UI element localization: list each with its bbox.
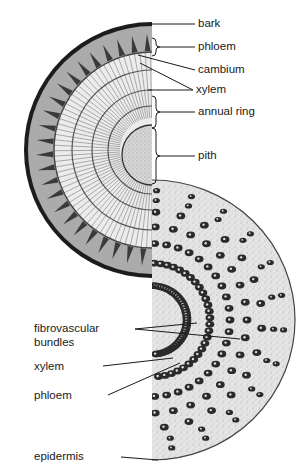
label-epidermis: epidermis [34, 450, 84, 463]
label-xylem: xylem [196, 83, 226, 96]
label-xylem-monocot: xylem [34, 360, 64, 373]
label-cambium: cambium [198, 63, 245, 76]
label-pith: pith [198, 149, 217, 162]
label-bark: bark [198, 17, 220, 30]
stem-cross-section-diagram: bark phloem cambium xylem annual ring pi… [0, 0, 305, 473]
label-phloem-monocot: phloem [34, 389, 72, 402]
label-phloem: phloem [198, 40, 236, 53]
label-annual-ring: annual ring [198, 105, 255, 118]
label-bundles: bundles [34, 336, 74, 349]
label-fibrovascular: fibrovascular [34, 322, 99, 335]
diagram-graphic [0, 0, 305, 473]
